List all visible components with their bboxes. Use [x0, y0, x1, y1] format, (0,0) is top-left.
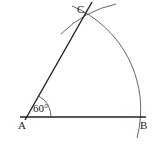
- arc-centered-at-a: [72, 6, 141, 138]
- point-label-b: B: [140, 119, 147, 131]
- point-label-a: A: [18, 119, 26, 131]
- point-label-c: C: [77, 3, 84, 15]
- angle-label: 60°: [33, 102, 48, 114]
- construction-diagram: 60° A B C: [0, 0, 158, 148]
